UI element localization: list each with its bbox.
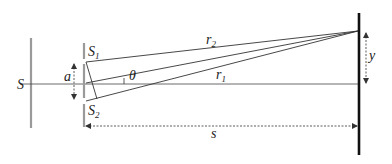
- path-difference-line: [86, 62, 97, 99]
- double-slit-diagram: S S1 S2 a θ r2 r1 s y: [0, 0, 392, 164]
- angle-label: θ: [129, 68, 136, 83]
- slit-separation-label: a: [64, 69, 71, 84]
- ray-r1: [86, 31, 358, 101]
- source-label: S: [17, 77, 24, 92]
- r1-label: r1: [216, 67, 226, 84]
- screen-distance-label: s: [211, 126, 217, 141]
- screen-offset-label: y: [367, 48, 376, 63]
- slit1-label: S1: [88, 44, 100, 61]
- slit2-label: S2: [88, 103, 100, 120]
- r2-label: r2: [206, 32, 216, 49]
